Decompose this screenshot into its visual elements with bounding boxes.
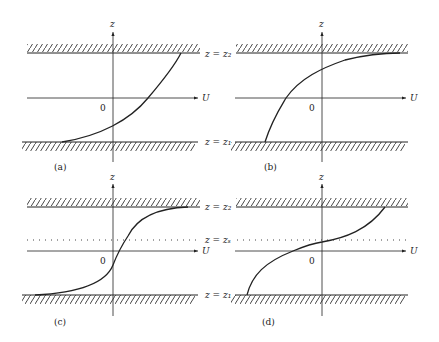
top-wall-hatch <box>27 198 200 206</box>
bottom-wall-label: z = z₁ <box>204 137 231 147</box>
panel-caption: (c) <box>54 317 66 327</box>
z-axis-label: z <box>109 19 115 29</box>
origin-label: 0 <box>100 103 106 113</box>
z-axis-label: z <box>318 19 324 29</box>
u-axis-label: U <box>202 93 210 103</box>
top-wall-hatch <box>27 44 200 52</box>
velocity-profile-curve <box>62 53 181 142</box>
bottom-wall-hatch <box>22 295 195 304</box>
panel-caption: (a) <box>54 162 66 172</box>
top-wall-label: z = z₂ <box>204 49 232 59</box>
u-axis-label: U <box>202 246 210 256</box>
panel-b: z U 0 (b) <box>231 19 418 172</box>
z-axis-label: z <box>109 172 115 182</box>
z-axis-label: z <box>318 172 324 182</box>
u-axis-label: U <box>410 246 418 256</box>
top-wall-label: z = z₂ <box>204 202 232 212</box>
critical-level-label: z = zₛ <box>204 235 231 245</box>
bottom-wall-label: z = z₁ <box>204 290 231 300</box>
bottom-wall-hatch <box>231 142 405 151</box>
velocity-profile-curve <box>265 53 400 142</box>
origin-label: 0 <box>309 103 315 113</box>
bottom-wall-hatch <box>231 295 405 304</box>
panel-a: z U 0 (a) <box>22 19 210 172</box>
panel-c: z U 0 (c) <box>22 172 210 327</box>
origin-label: 0 <box>100 256 106 266</box>
bottom-wall-hatch <box>22 142 195 151</box>
velocity-profile-figure: z U 0 (a) z = z₂ z = z₁ z U 0 (b) z U 0 … <box>0 0 439 342</box>
panel-d: z U 0 (d) <box>231 172 418 327</box>
panel-caption: (b) <box>264 162 277 172</box>
u-axis-label: U <box>410 93 418 103</box>
origin-label: 0 <box>309 256 315 266</box>
panel-caption: (d) <box>262 317 275 327</box>
